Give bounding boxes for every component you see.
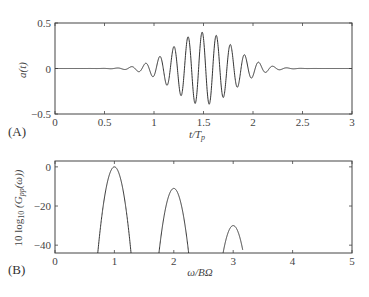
figure: 00.511.522.530.50−0.5 0123450−20−40 (A) …	[0, 0, 369, 297]
panel-b-plot: 0123450−20−40	[34, 161, 355, 267]
x-tick-label: 1	[112, 255, 118, 267]
y-tick-label: −20	[34, 200, 52, 212]
y-tick-label: 0	[46, 161, 52, 173]
x-tick-label: 0.5	[98, 116, 112, 128]
signal-line	[55, 32, 352, 104]
x-tick-label: 2.5	[296, 116, 310, 128]
panel-a-label: (A)	[8, 124, 26, 139]
x-tick-label: 2	[250, 116, 256, 128]
x-tick-label: 1.5	[197, 116, 211, 128]
y-tick-label: −0.5	[31, 108, 51, 120]
spectrum-lobe	[98, 167, 131, 253]
x-tick-label: 2	[171, 255, 177, 267]
x-tick-label: 3	[349, 116, 355, 128]
y-tick-label: 0.5	[37, 17, 51, 29]
y-tick-label: 0	[46, 63, 52, 75]
panel-a-ylabel: a(t)	[16, 62, 29, 78]
panel-a-plot: 00.511.522.530.50−0.5	[31, 17, 355, 128]
panel-b-xlabel: ω/BΩ	[187, 266, 213, 278]
x-tick-label: 3	[230, 255, 236, 267]
y-tick-label: −40	[34, 239, 52, 251]
spectrum-lobe	[159, 188, 189, 253]
x-tick-label: 0	[52, 116, 58, 128]
x-tick-label: 4	[290, 255, 296, 267]
x-tick-label: 5	[349, 255, 355, 267]
x-tick-label: 1	[151, 116, 157, 128]
panel-b-ylabel: 10 log10 (Gpp(ω))	[12, 169, 26, 246]
spectrum-lobe	[223, 226, 243, 253]
x-tick-label: 0	[52, 255, 58, 267]
panel-a-xlabel: t/Tp	[189, 128, 205, 142]
panel-b-label: (B)	[8, 262, 25, 277]
